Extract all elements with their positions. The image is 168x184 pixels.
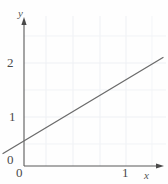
- x-tick-label-0: 0: [16, 166, 23, 179]
- plot-line: [3, 58, 163, 154]
- axes-group: [21, 17, 164, 169]
- x-axis-label: x: [144, 170, 149, 181]
- graph-figure: y x 2 1 0 0 1: [0, 0, 168, 184]
- gridlines-group: [24, 16, 166, 166]
- y-tick-label-0: 0: [7, 153, 14, 166]
- x-tick-label-1: 1: [122, 166, 129, 179]
- y-tick-label-2: 2: [7, 56, 14, 69]
- x-axis-arrowhead: [156, 163, 164, 168]
- graph-canvas: [0, 0, 168, 184]
- y-tick-label-1: 1: [9, 110, 16, 123]
- plot-line-group: [3, 58, 163, 154]
- y-axis-label: y: [18, 8, 23, 19]
